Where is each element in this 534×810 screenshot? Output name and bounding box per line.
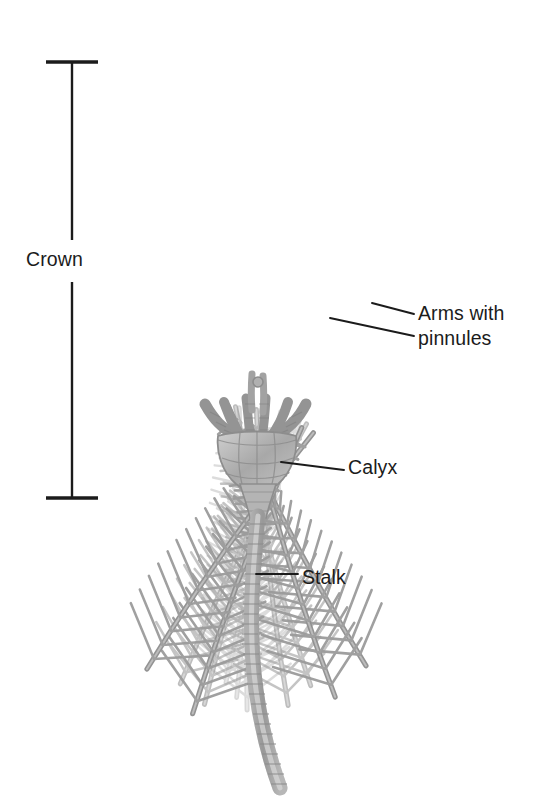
crown-extent-bracket xyxy=(46,62,98,498)
leader-arms-upper xyxy=(372,303,414,314)
label-arms-with-pinnules: Arms withpinnules xyxy=(418,301,505,351)
label-stalk: Stalk xyxy=(302,565,346,590)
label-crown: Crown xyxy=(26,247,83,272)
crinoid-illustration xyxy=(0,0,534,810)
figure-canvas: Crown Arms withpinnules Calyx Stalk xyxy=(0,0,534,810)
specimen-group xyxy=(106,374,405,788)
label-arms-line2: pinnules xyxy=(418,327,491,349)
leader-arms-lower xyxy=(330,318,414,336)
label-arms-line1: Arms with xyxy=(418,302,505,324)
calyx xyxy=(218,431,297,518)
label-calyx: Calyx xyxy=(348,455,397,480)
